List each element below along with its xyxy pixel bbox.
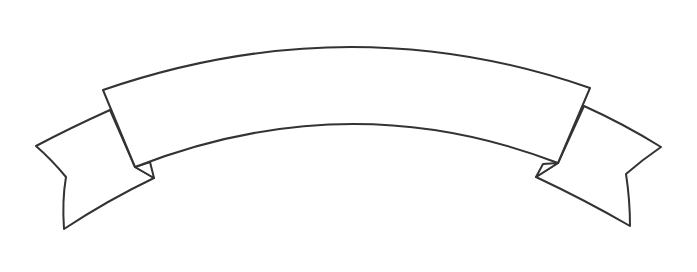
ribbon-banner-canvas [0, 0, 697, 272]
ribbon-banner-illustration [0, 0, 697, 272]
center-ribbon-band [103, 47, 590, 167]
